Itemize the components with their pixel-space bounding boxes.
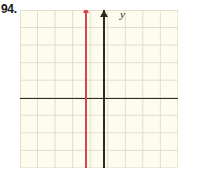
grid-lines	[20, 10, 178, 168]
problem-number-label: 94.	[1, 2, 17, 16]
plotted-line-arrow-icon	[83, 10, 89, 13]
y-axis-label: y	[120, 10, 125, 20]
x-axis	[20, 98, 178, 100]
plotted-vertical-line	[85, 12, 87, 168]
coordinate-plane: x y	[20, 10, 178, 168]
y-axis	[103, 10, 105, 168]
y-axis-arrow-icon	[100, 10, 108, 17]
graph-figure: 94. x y	[0, 0, 197, 174]
